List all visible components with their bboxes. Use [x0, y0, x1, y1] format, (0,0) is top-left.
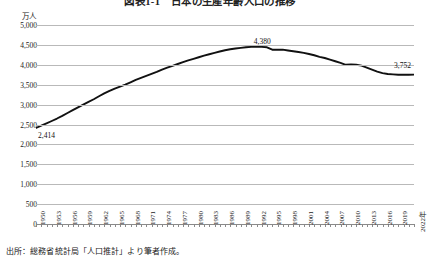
x-axis-tick: [351, 224, 352, 227]
y-axis-tick-label: 4,000: [5, 60, 37, 69]
x-axis-tick: [320, 224, 321, 227]
y-axis-tick-label: 2,000: [5, 140, 37, 149]
x-axis-tick: [162, 224, 163, 227]
gridline: [36, 144, 414, 145]
x-axis-tick: [241, 224, 242, 227]
x-axis-tick-label: 1989: [244, 211, 252, 225]
x-axis-tick-label: 1977: [181, 211, 189, 225]
x-axis-tick-label: 2001: [307, 211, 315, 225]
y-axis-tick-label: 4,500: [5, 40, 37, 49]
x-axis-tick: [383, 224, 384, 227]
x-axis-tick: [225, 224, 226, 227]
y-axis-tick-label: 2,500: [5, 120, 37, 129]
x-axis-tick: [194, 224, 195, 227]
gridline: [36, 204, 414, 205]
y-axis-tick-label: 1,000: [5, 180, 37, 189]
y-axis-tick-label: 3,500: [5, 80, 37, 89]
x-axis-tick: [272, 224, 273, 227]
x-axis-tick-label: 2016: [386, 211, 394, 225]
gridline: [36, 125, 414, 126]
x-axis-tick: [335, 224, 336, 227]
population-line-chart: 万人 05001,0001,5002,0002,5003,0003,5004,0…: [0, 8, 420, 240]
callout-peak-value: 4,380: [254, 37, 271, 46]
x-axis-tick-label: 1995: [275, 211, 283, 225]
x-axis-tick: [304, 224, 305, 227]
x-axis-tick: [99, 224, 100, 227]
gridline: [36, 25, 414, 26]
x-axis-tick: [288, 224, 289, 227]
callout-start-value: 2,414: [38, 131, 55, 140]
x-axis-tick: [115, 224, 116, 227]
x-axis-tick: [68, 224, 69, 227]
x-axis-tick-label: 1950: [39, 211, 47, 225]
y-axis-unit-label: 万人: [22, 10, 36, 21]
x-axis-tick-label: 2019: [401, 211, 409, 225]
x-axis-tick: [209, 224, 210, 227]
x-axis-tick: [414, 224, 415, 227]
x-axis-tick: [367, 224, 368, 227]
x-axis-tick-label: 1953: [55, 211, 63, 225]
plot-area: 2,414 4,380 3,752: [36, 25, 414, 224]
x-axis-tick: [398, 224, 399, 227]
x-axis-tick-label: 1974: [165, 211, 173, 225]
x-axis-tick-label: 1983: [212, 211, 220, 225]
x-axis-tick: [131, 224, 132, 227]
x-axis-tick-label: 1968: [134, 211, 142, 225]
x-axis-tick: [36, 224, 37, 227]
page-title: 図表1-1 日本の生産年齢人口の推移: [0, 0, 420, 7]
y-axis-tick-label: 5,000: [5, 21, 37, 30]
x-axis-tick-label: 1965: [118, 211, 126, 225]
chart-title-clip: 図表1-1 日本の生産年齢人口の推移: [0, 0, 420, 7]
x-axis-tick-label: 1986: [228, 211, 236, 225]
y-axis-tick-label: 0: [5, 220, 37, 229]
x-axis-tick-label: 1959: [86, 211, 94, 225]
gridline: [36, 105, 414, 106]
y-axis-tick-label: 3,000: [5, 100, 37, 109]
x-axis-tick-label: 1992: [260, 211, 268, 225]
x-axis-tick-label: 1998: [291, 211, 299, 225]
x-axis-tick-label: 1962: [102, 211, 110, 225]
gridline: [36, 164, 414, 165]
x-axis-tick: [146, 224, 147, 227]
x-axis-tick: [52, 224, 53, 227]
y-axis-tick-label: 500: [5, 200, 37, 209]
x-axis-tick: [257, 224, 258, 227]
gridline: [36, 65, 414, 66]
gridline: [36, 184, 414, 185]
x-axis-tick-label: 2013: [370, 211, 378, 225]
x-axis-tick: [83, 224, 84, 227]
x-axis-tick-label: 1980: [197, 211, 205, 225]
x-axis-tick-label: 1971: [149, 211, 157, 225]
x-axis-tick-label: 1956: [71, 211, 79, 225]
source-note: 出所：総務省統計局「人口推計」より筆者作成。: [6, 245, 184, 256]
x-axis-tick-label: 2007: [338, 211, 346, 225]
gridline: [36, 85, 414, 86]
x-axis-tick-label: 2004: [323, 211, 331, 225]
x-axis-tick-label: 2010: [354, 211, 362, 225]
gridline: [36, 45, 414, 46]
x-axis-tick-label: 2022年: [417, 211, 427, 232]
callout-end-value: 3,752: [394, 61, 411, 70]
y-axis-tick-label: 1,500: [5, 160, 37, 169]
x-axis-tick: [178, 224, 179, 227]
